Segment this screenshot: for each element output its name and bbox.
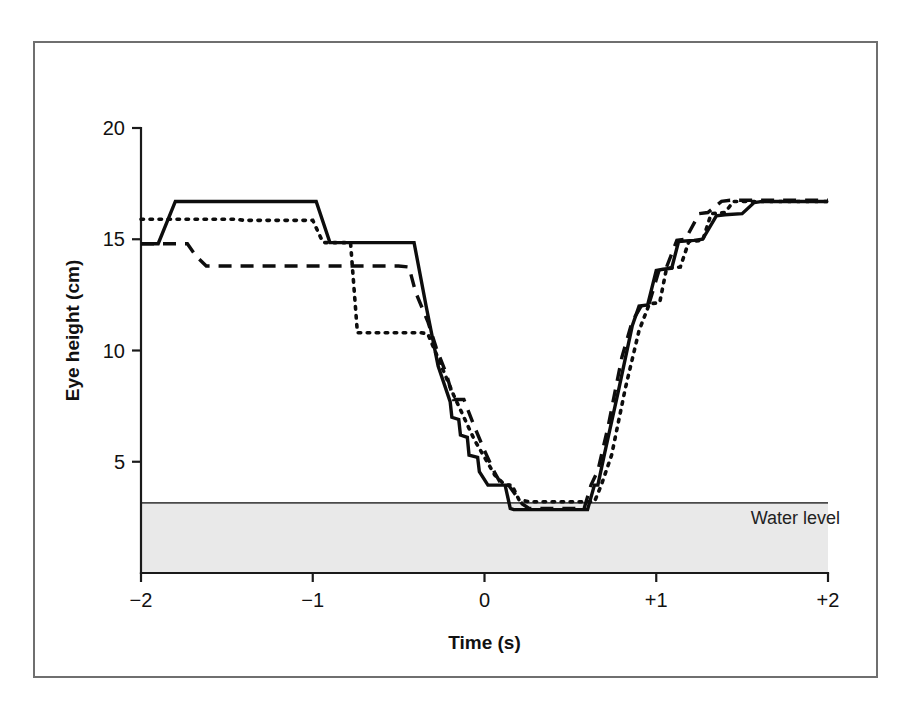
series-trial-3-dotted (141, 201, 828, 501)
series-trial-2-dashed (141, 200, 828, 508)
figure-frame-border: 5101520 −2−10+1+2 Water level Time (s) E… (33, 41, 878, 678)
y-axis-title: Eye height (cm) (62, 260, 83, 401)
y-tick-label-5: 5 (114, 451, 125, 473)
x-tick-label-2: 0 (479, 589, 490, 611)
figure-root: 5101520 −2−10+1+2 Water level Time (s) E… (0, 0, 914, 709)
water-shaded-band (141, 503, 828, 573)
y-tick-label-10: 10 (103, 340, 125, 362)
x-axis-tick-marks (141, 573, 828, 582)
y-axis-tick-labels: 5101520 (103, 117, 125, 473)
y-axis-tick-marks (132, 128, 141, 462)
y-tick-label-15: 15 (103, 228, 125, 250)
water-level-annotation: Water level (751, 508, 840, 528)
water-region-group (141, 503, 828, 573)
x-tick-label-0: −2 (130, 589, 153, 611)
series-trial-1-solid (141, 201, 828, 509)
x-axis-title: Time (s) (448, 632, 521, 653)
y-tick-label-20: 20 (103, 117, 125, 139)
data-series-group (141, 200, 828, 509)
x-tick-label-1: −1 (301, 589, 324, 611)
x-tick-label-4: +2 (817, 589, 840, 611)
x-tick-label-3: +1 (645, 589, 668, 611)
eye-height-vs-time-chart: 5101520 −2−10+1+2 Water level Time (s) E… (35, 43, 876, 676)
x-axis-tick-labels: −2−10+1+2 (130, 589, 840, 611)
